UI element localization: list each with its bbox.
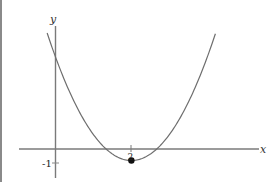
chart-frame: y x -1 2 [0, 0, 280, 182]
x-axis-label: x [260, 143, 267, 156]
parabola-curve [47, 33, 215, 161]
tick-label-neg1: -1 [42, 158, 52, 169]
y-axis-label: y [49, 13, 57, 26]
tick-label-2: 2 [128, 152, 134, 162]
chart-svg: y x -1 2 [2, 0, 280, 182]
